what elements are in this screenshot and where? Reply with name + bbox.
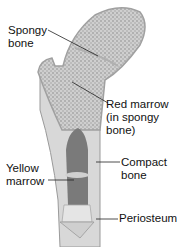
- label-spongy-bone: Spongy bone: [8, 24, 47, 50]
- label-periosteum: Periosteum: [119, 212, 177, 225]
- label-line: bone: [121, 169, 167, 182]
- label-yellow-marrow: Yellow marrow: [6, 162, 44, 188]
- label-line: Compact: [121, 156, 167, 169]
- yellow-marrow-cavity: [66, 128, 88, 205]
- label-compact-bone: Compact bone: [121, 156, 167, 182]
- bone-diagram: Spongy bone Red marrow (in spongy bone) …: [0, 0, 186, 247]
- label-line: Yellow: [6, 162, 44, 175]
- label-line: (in spongy: [106, 111, 169, 124]
- label-line: Periosteum: [119, 212, 177, 225]
- label-line: bone): [106, 124, 169, 137]
- label-line: marrow: [6, 175, 44, 188]
- label-line: Red marrow: [106, 98, 169, 111]
- label-line: bone: [8, 37, 47, 50]
- label-line: Spongy: [8, 24, 47, 37]
- label-red-marrow: Red marrow (in spongy bone): [106, 98, 169, 137]
